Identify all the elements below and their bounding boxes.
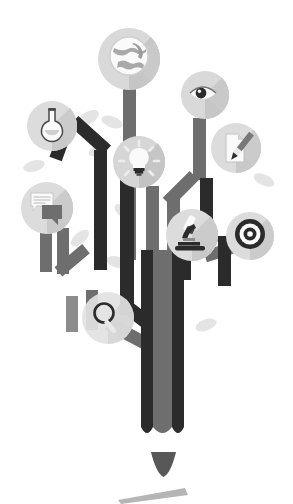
hit-eye[interactable] <box>181 71 229 119</box>
hit-globe[interactable] <box>98 28 160 90</box>
hit-flask[interactable] <box>27 101 77 151</box>
trunk-band-center <box>153 250 172 433</box>
branch-right-vert-b <box>193 118 206 180</box>
leaf-shape <box>194 316 218 334</box>
hit-document-pen[interactable] <box>211 123 261 173</box>
leaf-shape <box>252 170 277 189</box>
branch-left-vert-a <box>94 150 107 270</box>
ground-bar <box>118 488 188 504</box>
trunk-band-right <box>172 250 184 433</box>
hit-target[interactable] <box>226 212 274 260</box>
hit-microscope[interactable] <box>166 209 218 261</box>
branch-stub-left-b <box>66 296 78 332</box>
branch-chat-lower <box>40 232 52 272</box>
leaf-shape <box>68 227 92 250</box>
leaf-shape <box>22 158 46 174</box>
tree-trunk <box>141 250 184 433</box>
trunk-band-left <box>141 250 153 433</box>
hit-magnifier[interactable] <box>82 292 134 344</box>
root-triangle <box>151 452 176 477</box>
hit-chat[interactable] <box>21 182 73 234</box>
hit-lightbulb[interactable] <box>113 136 165 188</box>
illustration-canvas <box>0 0 293 504</box>
branch-bulb-stem <box>146 186 159 256</box>
leaf-shape <box>100 113 124 131</box>
